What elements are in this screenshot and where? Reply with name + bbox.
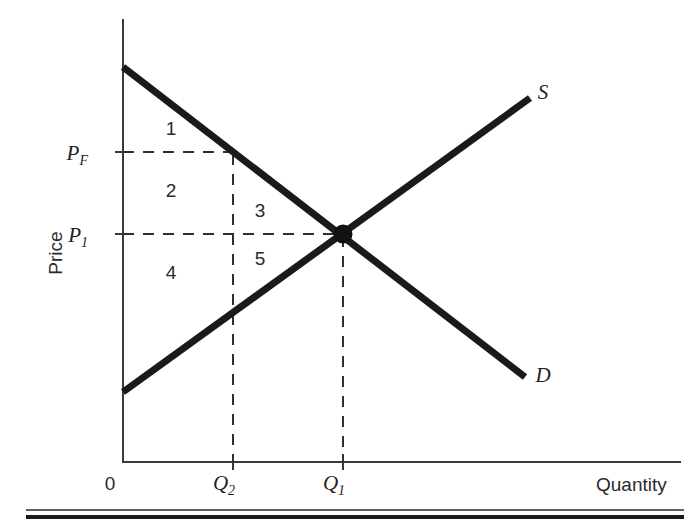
region-label-5: 5: [255, 248, 266, 269]
equilibrium-price-label-sub: 1: [81, 235, 88, 250]
equilibrium-point: [334, 225, 353, 244]
quantity-q1-label: Q1: [323, 471, 345, 498]
quantity-q1-label-base: Q: [323, 471, 338, 495]
supply-curve: [123, 98, 530, 392]
quantity-q2-label-base: Q: [213, 471, 228, 495]
equilibrium-price-label: P1: [67, 223, 88, 250]
supply-curve-label: S: [538, 80, 549, 104]
origin-label: 0: [105, 473, 116, 494]
region-label-4: 4: [166, 262, 177, 283]
region-label-2: 2: [166, 180, 177, 201]
axes-group: [123, 20, 680, 462]
quantity-q1-label-sub: 1: [338, 483, 345, 498]
x-axis-title: Quantity: [596, 474, 667, 495]
supply-demand-chart: S D 1 2 3 4 5 PF P1 Q2 Q1 0 Price Quanti…: [0, 0, 692, 525]
quantity-q2-label: Q2: [213, 471, 235, 498]
price-floor-label-sub: F: [78, 153, 88, 168]
quantity-q2-label-sub: 2: [228, 483, 235, 498]
demand-curve: [123, 67, 525, 377]
region-label-1: 1: [166, 118, 177, 139]
y-axis-title: Price: [45, 231, 66, 274]
price-floor-label-base: P: [66, 141, 80, 165]
price-floor-label: PF: [66, 141, 89, 168]
guide-lines-group: [123, 152, 345, 462]
figure-root: S D 1 2 3 4 5 PF P1 Q2 Q1 0 Price Quanti…: [0, 0, 692, 525]
demand-curve-label: D: [534, 363, 550, 387]
region-label-3: 3: [255, 200, 266, 221]
bottom-rule-ornament: [26, 510, 684, 517]
equilibrium-price-label-base: P: [67, 223, 81, 247]
